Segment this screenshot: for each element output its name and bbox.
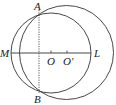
label-b: B xyxy=(34,93,41,105)
label-o-prime: O' xyxy=(63,55,74,67)
label-o: O xyxy=(47,55,55,67)
label-a: A xyxy=(33,0,41,12)
geometry-diagram: A B M L O O' xyxy=(0,0,116,105)
label-m: M xyxy=(0,47,10,59)
label-l: L xyxy=(93,47,100,59)
